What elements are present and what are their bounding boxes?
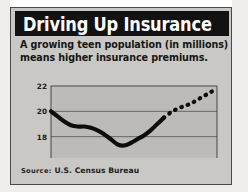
y-tick-18: 18 <box>37 133 47 142</box>
line-chart: 22 20 18 16 '82 '87 '92 '97 '02 '07 <box>15 68 229 158</box>
chart-svg: 22 20 18 16 '82 '87 '92 '97 '02 '07 <box>15 68 229 158</box>
subtitle-line-2: means higher insurance premiums. <box>20 52 226 65</box>
source-line: Source: U.S. Census Bureau <box>21 166 139 175</box>
page-title: Driving Up Insurance <box>23 13 212 35</box>
page-margin-right <box>232 0 248 192</box>
page-margin-left <box>0 0 10 192</box>
source-attribution: U.S. Census Bureau <box>54 166 139 175</box>
y-tick-22: 22 <box>37 82 47 91</box>
subtitle-line-1: A growing teen population (in millions) <box>20 39 226 52</box>
y-axis-tick-labels: 22 20 18 16 <box>37 82 47 158</box>
plot-background <box>51 86 217 158</box>
subtitle-deck: A growing teen population (in millions) … <box>20 39 226 64</box>
title-banner: Driving Up Insurance <box>15 11 229 36</box>
page-margin-bottom <box>0 185 248 192</box>
infographic-card: Driving Up Insurance A growing teen popu… <box>10 7 232 185</box>
y-tick-20: 20 <box>37 107 47 116</box>
infographic-root: Driving Up Insurance A growing teen popu… <box>0 0 248 192</box>
y-tick-16: 16 <box>37 157 47 158</box>
source-label: Source: <box>21 167 52 175</box>
